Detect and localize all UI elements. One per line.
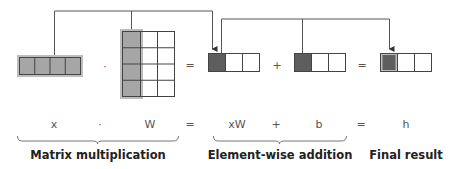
symbol-x: x [51, 118, 58, 131]
caption-final-result: Final result [369, 148, 443, 162]
caption-element-wise-addition: Element-wise addition [208, 148, 353, 162]
vector-x [17, 55, 83, 77]
diagram-canvas [0, 0, 452, 169]
symbol-W: W [145, 118, 156, 131]
symbol-xW: xW [228, 118, 245, 131]
brace-matmul [18, 136, 179, 144]
matrix-W [120, 29, 175, 99]
symbol-equals-1: = [185, 118, 194, 131]
symbol-dot: · [98, 118, 102, 131]
symbol-equals-2: = [356, 118, 365, 131]
equals-operator-top-1: = [185, 59, 194, 72]
connector-add [222, 19, 390, 53]
vector-xW [209, 54, 260, 72]
caption-matrix-multiplication: Matrix multiplication [30, 148, 166, 162]
symbol-b: b [316, 118, 323, 131]
plus-operator-top: + [272, 59, 281, 72]
symbol-plus: + [271, 118, 280, 131]
symbol-h: h [403, 118, 410, 131]
vector-h [381, 54, 432, 72]
dot-operator-top: · [103, 60, 107, 73]
equals-operator-top-2: = [357, 59, 366, 72]
vector-b [295, 54, 346, 72]
brace-add [214, 136, 347, 144]
